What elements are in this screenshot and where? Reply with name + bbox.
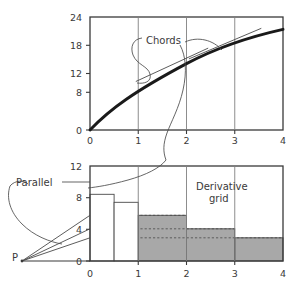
open-bar-0-05	[90, 194, 114, 261]
top-ytick-8: 8	[76, 87, 82, 98]
bottom-ytick-12: 12	[70, 161, 82, 172]
top-ytick-18: 18	[70, 40, 82, 51]
chords-hook-continuation	[88, 160, 166, 188]
shaded-bar-2-3	[187, 229, 235, 261]
derivative-open-bars	[90, 194, 138, 261]
point-p-label: P	[12, 252, 18, 263]
derivative-grid-label-line1: Derivative	[196, 181, 248, 192]
bottom-xtick-4: 4	[280, 268, 286, 279]
top-xtick-1: 1	[135, 135, 141, 146]
bottom-xtick-2: 2	[183, 268, 189, 279]
top-ytick-12: 12	[70, 68, 82, 79]
top-xtick-3: 3	[232, 135, 238, 146]
parallel-leader-curve	[9, 186, 63, 244]
top-ytick-24: 24	[70, 12, 82, 23]
top-chart: 24 18 12 8 0 0 1 2 3 4	[70, 12, 286, 161]
bottom-chart: 12 8 4 0 P 0 1 2 3 4	[9, 160, 287, 279]
top-xtick-4: 4	[280, 135, 286, 146]
bottom-xtick-3: 3	[232, 268, 238, 279]
parallel-label: Parallel	[16, 177, 52, 188]
bottom-xtick-1: 1	[135, 268, 141, 279]
shaded-bar-3-4	[235, 238, 283, 261]
point-p-marker	[21, 260, 24, 263]
top-xtick-2: 2	[183, 135, 189, 146]
chords-label: Chords	[146, 35, 181, 46]
derivative-grid-label-line2: grid	[209, 193, 229, 204]
parallel-rays	[22, 215, 90, 261]
bottom-xtick-0: 0	[87, 268, 93, 279]
bottom-ytick-8: 8	[76, 192, 82, 203]
derivative-grid-figure: 24 18 12 8 0 0 1 2 3 4	[0, 0, 298, 286]
top-ytick-0: 0	[76, 125, 82, 136]
top-xtick-0: 0	[87, 135, 93, 146]
ray-1	[22, 215, 90, 261]
open-bar-05-1	[114, 202, 138, 261]
